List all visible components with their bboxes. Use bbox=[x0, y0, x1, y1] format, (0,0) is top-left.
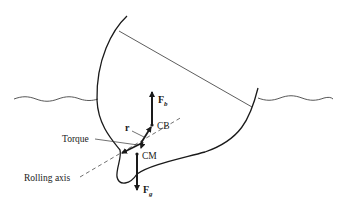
center-of-mass-label: CM bbox=[142, 151, 157, 161]
ship-stability-diagram: Fb CB r Torque CM Rolling axis Fg bbox=[0, 0, 346, 203]
rolling-axis-label: Rolling axis bbox=[24, 173, 70, 183]
ship-hull bbox=[97, 16, 258, 183]
lever-arm-label: r bbox=[125, 122, 130, 133]
center-of-buoyancy-label: CB bbox=[157, 121, 170, 131]
water-surface-left bbox=[14, 97, 98, 102]
deck-line bbox=[119, 31, 252, 107]
lever-arm-arrow bbox=[141, 127, 151, 143]
buoyant-force-label: Fb bbox=[158, 94, 168, 108]
water-surface-right bbox=[258, 96, 333, 101]
gravity-force-label: Fg bbox=[143, 184, 153, 198]
r-leader bbox=[132, 131, 144, 137]
torque-leader bbox=[95, 139, 138, 145]
center-of-buoyancy-point bbox=[150, 123, 153, 126]
torque-label: Torque bbox=[62, 134, 89, 144]
